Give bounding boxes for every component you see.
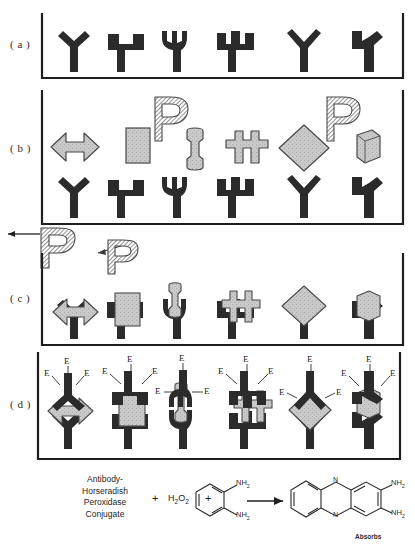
antibody-trident <box>217 177 254 218</box>
complex-rectangle <box>107 293 143 339</box>
sandwich-dumbbell <box>169 370 192 449</box>
enzyme-label-e: E <box>102 366 108 376</box>
elisa-figure: · · · ·· · <box>0 0 415 546</box>
unbound-antigen-p-washed-1 <box>41 228 75 268</box>
enzyme-label-e: E <box>279 387 285 397</box>
panel-label-c: ( c ) <box>10 292 30 304</box>
product-amine-group-2: NH2 <box>391 508 405 519</box>
enzyme-label-e: E <box>307 354 313 364</box>
enzyme-label-e: E <box>218 366 224 376</box>
enzyme-label-e: E <box>127 354 133 364</box>
unbound-antigen-p-2 <box>327 97 360 141</box>
enzyme-label-e: E <box>243 354 249 364</box>
conjugate-line-1: Antibody- <box>62 474 148 486</box>
antibody-y-thick <box>58 177 90 218</box>
antigen-double-arrow <box>51 133 99 161</box>
enzyme-label-e: E <box>341 368 347 378</box>
complex-dumbbell <box>163 283 186 339</box>
conjugate-line-2: Horseradish <box>62 486 148 498</box>
enzyme-label-e: E <box>64 356 70 366</box>
panel-c-complexes <box>53 283 383 339</box>
antibody-square-u <box>108 34 144 72</box>
plus-sign-1: + <box>152 492 158 504</box>
enzyme-label-e: E <box>366 354 372 364</box>
antigen-dumbbell <box>187 128 203 170</box>
panel-label-a: ( a ) <box>10 38 30 50</box>
opd-amine-group-1: NH2 <box>236 478 250 489</box>
sandwich-rectangle <box>112 371 148 449</box>
enzyme-label-e: E <box>179 353 185 363</box>
opd-amine-group-2: NH2 <box>236 510 250 521</box>
panel-c-frame <box>42 253 403 345</box>
absorbs-label: Absorbs <box>355 533 381 540</box>
complex-hexagon <box>352 291 383 339</box>
antibody-y-thick <box>58 31 90 72</box>
conjugate-label: Antibody- Horseradish Peroxidase Conjuga… <box>62 474 148 520</box>
product-amine-group-1: NH2 <box>391 478 405 489</box>
enzyme-label-e: E <box>204 386 210 396</box>
antibody-narrow-u <box>162 31 187 72</box>
panel-d-complexes <box>48 370 383 449</box>
antigen-rectangle <box>126 128 150 163</box>
antibody-square-u <box>108 180 144 218</box>
panel-a-antibodies <box>58 29 383 72</box>
enzyme-label-e: E <box>336 387 342 397</box>
conjugate-line-3: Peroxidase <box>62 497 148 509</box>
complex-cross <box>217 291 260 339</box>
antibody-thin-y <box>287 29 321 72</box>
sandwich-hexagon <box>352 371 383 449</box>
enzyme-label-e: E <box>155 386 161 396</box>
antibody-wide-y <box>352 177 383 218</box>
opd-benzene-ring <box>196 484 237 516</box>
complex-double-arrow <box>53 299 98 339</box>
panel-b-antibodies <box>58 175 383 218</box>
product-nitrogen-2: N <box>333 511 338 518</box>
unbound-antigen-p-washed-2 <box>108 240 138 274</box>
antibody-trident <box>217 31 254 72</box>
enzyme-label-e: E <box>152 366 158 376</box>
panel-label-b: ( b ) <box>10 142 31 154</box>
diaminophenazine-structure <box>291 481 392 517</box>
antibody-wide-y <box>352 31 383 72</box>
antibody-thin-y <box>287 175 321 218</box>
unbound-antigen-p-1 <box>155 97 188 141</box>
conjugate-line-4: Conjugate <box>62 509 148 521</box>
enzyme-label-e: E <box>390 368 396 378</box>
antigen-cross <box>226 131 268 163</box>
panel-b-frame <box>42 90 403 224</box>
plus-sign-2: + <box>205 492 211 504</box>
enzyme-label-e: E <box>268 366 274 376</box>
antibody-narrow-u <box>162 177 187 218</box>
panel-label-d: ( d ) <box>10 398 31 410</box>
sandwich-double-arrow <box>48 373 93 449</box>
hydrogen-peroxide-formula: H2O2 <box>168 493 189 505</box>
product-nitrogen-1: N <box>333 476 338 483</box>
figure-canvas <box>0 0 415 546</box>
antigen-hexagon <box>357 130 380 163</box>
antigen-diamond <box>279 125 329 171</box>
enzyme-label-e: E <box>84 368 90 378</box>
washed-unbound-antigens <box>41 228 138 274</box>
complex-diamond <box>282 286 326 339</box>
enzyme-label-e: E <box>44 368 50 378</box>
sandwich-diamond <box>289 371 331 449</box>
